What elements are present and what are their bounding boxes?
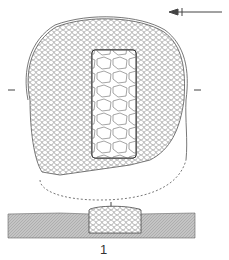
figure-label: 1	[100, 242, 107, 257]
north-arrow-icon	[169, 8, 222, 16]
archaeological-drawing	[0, 0, 229, 260]
